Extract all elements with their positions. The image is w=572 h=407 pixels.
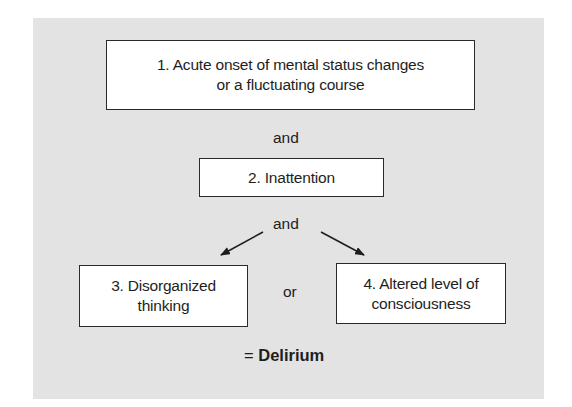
criterion-3-line-1: 3. Disorganized	[111, 276, 216, 296]
arrow-to-criterion-4-icon	[321, 232, 364, 255]
result-delirium: = Delirium	[244, 346, 324, 365]
equals-sign: =	[244, 346, 254, 364]
criterion-4-line-1: 4. Altered level of	[363, 274, 478, 294]
criterion-4-line-2: consciousness	[371, 294, 470, 314]
criterion-3-box: 3. Disorganized thinking	[79, 265, 248, 327]
result-label: Delirium	[258, 346, 324, 364]
criterion-3-line-2: thinking	[138, 296, 190, 316]
criterion-4-box: 4. Altered level of consciousness	[336, 263, 506, 324]
or-connector: or	[283, 283, 297, 301]
arrow-to-criterion-3-icon	[221, 232, 263, 255]
